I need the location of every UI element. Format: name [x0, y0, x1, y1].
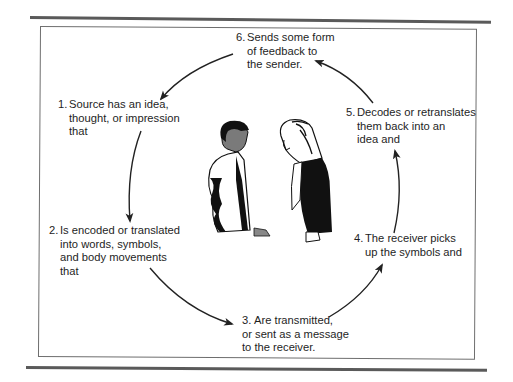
step-5-label: 5.Decodes or retranslates them back into… [346, 106, 476, 147]
step-number: 3. [242, 314, 254, 328]
step-number: 5. [346, 106, 357, 120]
step-number: 6. [236, 31, 247, 45]
step-1-label: 1.Source has an idea, thought, or impres… [58, 98, 180, 139]
step-number: 1. [58, 98, 69, 112]
arrow-6-to-1 [161, 54, 233, 99]
step-6-label: 6.Sends some form of feedback to the sen… [236, 31, 335, 72]
woman-figure [280, 120, 332, 242]
arrow-1-to-2 [129, 131, 141, 221]
arrow-3-to-4 [329, 265, 382, 317]
step-2-label: 2.Is encoded or translated into words, s… [49, 224, 180, 278]
step-number: 4. [354, 232, 365, 246]
arrow-4-to-5 [394, 151, 399, 233]
man-figure [209, 121, 270, 236]
step-3-label: 3.Are transmitted, or sent as a message … [242, 314, 349, 355]
step-number: 2. [49, 224, 60, 238]
people-illustration-icon [209, 120, 332, 242]
step-4-label: 4.The receiver picks up the symbols and [354, 232, 462, 259]
